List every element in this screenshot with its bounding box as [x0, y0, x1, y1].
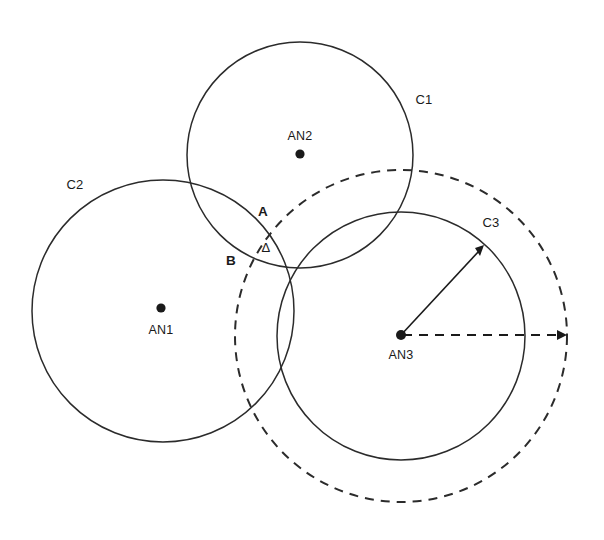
- anchor-node-label-an2: AN2: [287, 129, 312, 143]
- anchor-node-dot-an1: [156, 303, 165, 312]
- circle-label-c1: C1: [415, 92, 432, 107]
- radius-line-c3-true: [401, 251, 479, 335]
- diagram-canvas-root: C1 C2 C3 AN1 AN2 AN3 A B Δ: [0, 0, 604, 540]
- region-label-delta: Δ: [262, 240, 271, 255]
- point-label-a: A: [258, 204, 268, 219]
- geometry-diagram: C1 C2 C3 AN1 AN2 AN3 A B Δ: [0, 0, 604, 540]
- anchor-node-dot-an2: [295, 149, 304, 158]
- point-label-b: B: [226, 253, 236, 268]
- anchor-node-label-an1: AN1: [148, 323, 173, 337]
- circle-label-c3: C3: [482, 215, 499, 230]
- anchor-node-dot-an3: [396, 330, 406, 340]
- anchor-node-label-an3: AN3: [388, 348, 413, 362]
- circle-label-c2: C2: [66, 177, 83, 192]
- arrowhead-radius-uncertainty-icon: [557, 330, 567, 340]
